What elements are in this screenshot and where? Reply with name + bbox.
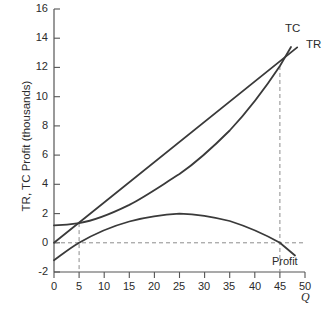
- x-tick-label-15: 15: [117, 281, 141, 292]
- y-tick-label-neg2: -2: [22, 266, 48, 277]
- x-tick-label-20: 20: [142, 281, 166, 292]
- x-tick-label-45: 45: [268, 281, 292, 292]
- series-label-tc: TC: [285, 22, 300, 34]
- x-tick-marks: [54, 272, 305, 278]
- y-tick-marks: [54, 9, 60, 272]
- series-line-tc: [54, 47, 291, 225]
- chart-figure: 16 14 12 10 8 6 4 2 0 -2 0 5 10 15 20 25…: [0, 0, 332, 311]
- x-tick-label-10: 10: [92, 281, 116, 292]
- x-tick-label-40: 40: [243, 281, 267, 292]
- series-label-profit: Profit: [272, 255, 298, 267]
- y-tick-label-16: 16: [22, 3, 48, 14]
- series-label-tr: TR: [306, 38, 321, 50]
- x-tick-label-0: 0: [42, 281, 66, 292]
- x-tick-label-35: 35: [217, 281, 241, 292]
- y-tick-label-14: 14: [22, 32, 48, 43]
- x-tick-label-25: 25: [167, 281, 191, 292]
- y-axis-title: TR, TC Profit (thousands): [20, 46, 32, 246]
- x-tick-label-5: 5: [67, 281, 91, 292]
- x-tick-label-30: 30: [192, 281, 216, 292]
- x-axis-title: Q: [301, 290, 310, 305]
